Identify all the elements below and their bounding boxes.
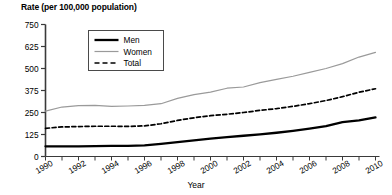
- y-tick-label: 250: [25, 108, 39, 118]
- series-line-total: [46, 89, 376, 129]
- y-tick-label: 375: [25, 86, 39, 96]
- x-tick-label: 1994: [100, 158, 121, 176]
- x-tick-label: 1996: [133, 158, 154, 176]
- y-tick-label: 625: [25, 42, 39, 52]
- y-tick-labels: 0125250375500625750: [25, 20, 39, 162]
- x-tick-label: 2000: [199, 158, 220, 176]
- series-line-men: [46, 117, 376, 146]
- y-tick-label: 500: [25, 64, 39, 74]
- x-tick-label: 2006: [298, 158, 319, 176]
- chart-title: Rate (per 100,000 population): [21, 2, 137, 12]
- x-axis-title: Year: [0, 180, 392, 190]
- legend-label-men: Men: [124, 35, 141, 45]
- chart-legend: MenWomenTotal: [89, 31, 164, 71]
- x-tick-label: 2002: [232, 158, 253, 176]
- x-tick-label: 1992: [67, 158, 88, 176]
- line-chart-plot: 0125250375500625750 19901992199419961998…: [0, 0, 392, 195]
- x-tick-label: 2008: [331, 158, 352, 176]
- chart-figure: Rate (per 100,000 population) 0125250375…: [0, 0, 392, 195]
- y-tick-label: 125: [25, 130, 39, 140]
- legend-label-women: Women: [124, 47, 153, 57]
- y-tick-label: 750: [25, 20, 39, 30]
- x-axis-group: 1990199219941996199820002002200420062008…: [34, 157, 385, 176]
- x-tick-label: 2004: [265, 158, 286, 176]
- y-axis-group: 0125250375500625750: [25, 20, 46, 162]
- y-tick-label: 0: [34, 152, 39, 162]
- x-tick-label: 2010: [364, 158, 385, 176]
- legend-label-total: Total: [124, 58, 142, 68]
- x-tick-label: 1998: [166, 158, 187, 176]
- x-tick-labels: 1990199219941996199820002002200420062008…: [34, 158, 385, 176]
